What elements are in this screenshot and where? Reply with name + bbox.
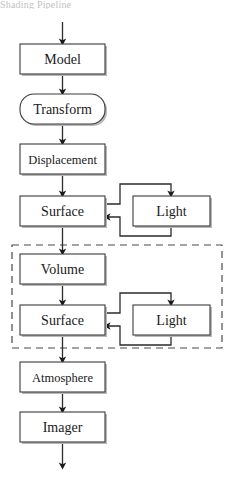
node-light-lower: Light bbox=[133, 305, 212, 337]
node-imager-label: Imager bbox=[43, 420, 83, 435]
node-light-upper-label: Light bbox=[156, 204, 186, 219]
node-surface-lower: Surface bbox=[20, 305, 107, 337]
node-model-label: Model bbox=[44, 52, 81, 67]
figure-canvas: Shading Pipeline bbox=[0, 0, 235, 484]
node-surface-upper-label: Surface bbox=[41, 204, 84, 219]
node-displacement: Displacement bbox=[20, 144, 107, 176]
node-transform-label: Transform bbox=[33, 102, 92, 117]
node-transform: Transform bbox=[20, 94, 107, 126]
node-light-upper: Light bbox=[133, 196, 212, 228]
node-volume: Volume bbox=[20, 254, 107, 286]
node-surface-lower-label: Surface bbox=[41, 313, 84, 328]
node-volume-label: Volume bbox=[41, 262, 84, 277]
pipeline-diagram: Model Transform Displacement Surface Lig… bbox=[0, 0, 235, 484]
node-imager: Imager bbox=[20, 412, 107, 444]
node-light-lower-label: Light bbox=[156, 313, 186, 328]
node-model: Model bbox=[20, 44, 107, 76]
node-displacement-label: Displacement bbox=[28, 153, 97, 167]
node-atmosphere: Atmosphere bbox=[20, 362, 107, 394]
node-surface-upper: Surface bbox=[20, 196, 107, 228]
node-atmosphere-label: Atmosphere bbox=[32, 371, 94, 385]
